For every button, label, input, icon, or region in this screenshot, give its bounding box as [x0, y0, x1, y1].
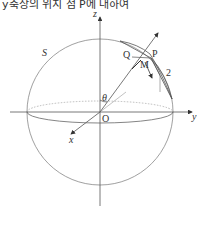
y-axis-label: y [191, 111, 197, 122]
patch-edge [151, 58, 160, 75]
point-m-label: M [140, 59, 149, 70]
point-p-label: P [152, 48, 158, 59]
theta-label: θ [102, 92, 107, 103]
origin-label: O [102, 113, 109, 124]
sphere-label: S [42, 47, 47, 58]
region-number-label: 2 [166, 67, 171, 78]
z-axis-label: z [92, 8, 97, 19]
x-axis-label: x [68, 134, 74, 145]
point-q-label: Q [123, 49, 131, 60]
sphere-diagram: z y x O S P Q M θ 2 [0, 0, 219, 225]
